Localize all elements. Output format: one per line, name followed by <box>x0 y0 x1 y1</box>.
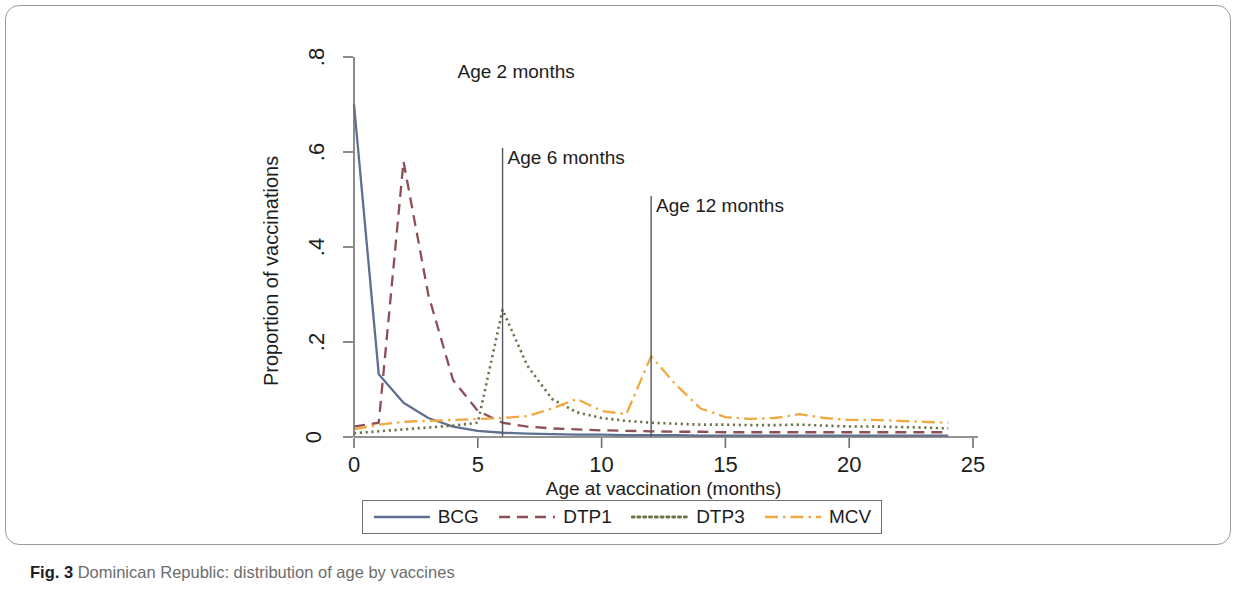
annotation-label-6-months: Age 6 months <box>508 147 625 168</box>
y-tick-label-.6: .6 <box>304 143 330 161</box>
y-axis-title: Proportion of vaccinations <box>260 156 283 386</box>
reference-lines-group <box>503 148 652 437</box>
x-tick-label-25: 25 <box>961 452 985 477</box>
y-tick-label-0: 0 <box>301 431 327 443</box>
legend-entry-mcv: MCV <box>764 506 871 528</box>
axis-group: 0510152025Age at vaccination (months) <box>343 57 985 499</box>
legend-entry-bcg: BCG <box>373 506 479 528</box>
chart-svg: 0510152025Age at vaccination (months) Ag… <box>0 0 1236 550</box>
legend-swatch-dtp3 <box>631 510 689 524</box>
x-tick-label-15: 15 <box>713 452 737 477</box>
x-tick-label-10: 10 <box>589 452 613 477</box>
legend-entry-dtp3: DTP3 <box>631 506 745 528</box>
y-axis-label-wrap: Proportion of vaccinations <box>236 130 266 390</box>
figure-caption-number: Fig. 3 <box>30 563 73 581</box>
annotation-label-12-months: Age 12 months <box>656 195 784 216</box>
y-tick-label-.2: .2 <box>304 333 330 351</box>
x-tick-label-5: 5 <box>472 452 484 477</box>
legend-label-mcv: MCV <box>829 506 871 528</box>
legend-label-dtp1: DTP1 <box>563 506 612 528</box>
x-axis-title: Age at vaccination (months) <box>546 478 782 499</box>
legend-label-dtp3: DTP3 <box>696 506 745 528</box>
legend-entry-dtp1: DTP1 <box>498 506 612 528</box>
chart-legend: BCGDTP1DTP3MCV <box>362 500 882 534</box>
chart-plot-area: 0510152025Age at vaccination (months) Ag… <box>0 0 1236 550</box>
legend-swatch-mcv <box>764 510 822 524</box>
x-tick-label-20: 20 <box>837 452 861 477</box>
annotation-labels-group: Age 2 monthsAge 6 monthsAge 12 months <box>458 61 784 216</box>
annotation-label-2-months: Age 2 months <box>458 61 575 82</box>
legend-label-bcg: BCG <box>438 506 479 528</box>
figure-caption-text: Dominican Republic: distribution of age … <box>78 563 455 581</box>
y-tick-label-.8: .8 <box>304 48 330 66</box>
legend-swatch-bcg <box>373 510 431 524</box>
x-tick-label-0: 0 <box>348 452 360 477</box>
figure-caption: Fig. 3 Dominican Republic: distribution … <box>30 563 1130 582</box>
y-tick-label-.4: .4 <box>304 238 330 256</box>
legend-swatch-dtp1 <box>498 510 556 524</box>
